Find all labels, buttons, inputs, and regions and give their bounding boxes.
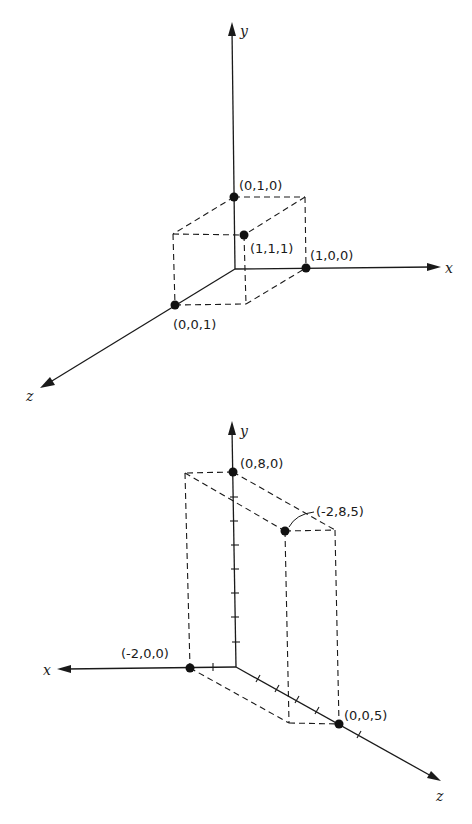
point-neg2-8-5: [281, 527, 290, 536]
label-1-1-1: (1,1,1): [250, 241, 293, 256]
top-x-arrowhead-icon: [427, 263, 441, 271]
label-neg2-0-0: (-2,0,0): [121, 646, 169, 661]
bottom-z-axis: [236, 667, 433, 777]
label-0-0-1: (0,0,1): [173, 317, 216, 332]
top-x-axis-label: x: [445, 260, 453, 276]
point-0-1-0: [230, 193, 239, 202]
label-0-0-5: (0,0,5): [344, 708, 387, 723]
point-1-1-1: [240, 231, 249, 240]
point-0-8-0: [229, 468, 238, 477]
bottom-y-axis-label: y: [239, 423, 249, 439]
coordinate-diagrams: y x z (0,1,0) (1,1,1) (1,0,0) (0,0,1): [0, 0, 472, 824]
top-y-axis: [232, 30, 235, 269]
point-neg2-0-0: [186, 664, 195, 673]
top-x-axis: [235, 267, 432, 269]
unit-cube-figure: y x z (0,1,0) (1,1,1) (1,0,0) (0,0,1): [25, 22, 453, 404]
top-y-arrowhead-icon: [228, 22, 236, 36]
point-1-0-0: [302, 264, 311, 273]
bottom-x-axis-label: x: [43, 662, 51, 678]
bottom-z-axis-label: z: [435, 788, 444, 804]
bottom-x-axis: [66, 667, 236, 669]
label-0-8-0: (0,8,0): [240, 456, 283, 471]
top-z-axis-label: z: [25, 388, 34, 404]
bottom-x-arrowhead-icon: [57, 665, 71, 673]
bottom-z-arrowhead-icon: [427, 771, 441, 781]
bottom-y-arrowhead-icon: [228, 421, 236, 435]
label-0-1-0: (0,1,0): [239, 178, 282, 193]
bottom-y-axis: [232, 429, 236, 667]
top-z-arrowhead-icon: [40, 377, 55, 388]
top-y-axis-label: y: [239, 23, 249, 39]
leader-line-2-8-5: [289, 512, 314, 527]
box-figure: y x z (0,8,0) (-2,8,5) (-2,0,0) (0,0,5): [43, 421, 444, 804]
point-0-0-5: [335, 720, 344, 729]
point-0-0-1: [171, 301, 180, 310]
label-neg2-8-5: (-2,8,5): [316, 504, 364, 519]
label-1-0-0: (1,0,0): [310, 248, 353, 263]
